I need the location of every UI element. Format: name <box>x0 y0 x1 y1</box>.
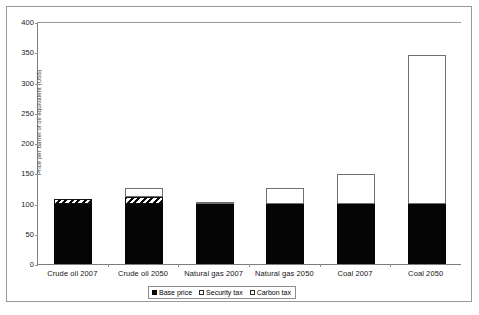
bar-segment <box>408 204 446 265</box>
x-tick-label: Coal 2050 <box>371 269 479 278</box>
bars-layer <box>38 23 461 264</box>
legend-swatch-icon <box>250 290 255 295</box>
bar-segment <box>196 204 234 265</box>
plot-area: Price per barrel of oil equivalent (US$)… <box>37 22 461 264</box>
bar-group <box>179 23 250 264</box>
bar-segment <box>125 204 163 265</box>
legend-item[interactable]: Security tax <box>199 288 243 297</box>
bar-segment <box>266 204 304 265</box>
x-tick-mark <box>249 264 250 267</box>
legend-label: Security tax <box>206 288 243 297</box>
bar-segment <box>408 55 446 203</box>
bar-group <box>321 23 392 264</box>
x-tick-mark <box>108 264 109 267</box>
legend-label: Carbon tax <box>257 288 291 297</box>
bar-group <box>250 23 321 264</box>
bar-segment <box>54 204 92 265</box>
legend-label: Base price <box>159 288 192 297</box>
bar-segment <box>196 202 234 204</box>
legend-swatch-icon <box>199 290 204 295</box>
bar-segment <box>337 174 375 203</box>
bar-group <box>391 23 462 264</box>
bar-group <box>109 23 180 264</box>
chart-root: Price per barrel of oil equivalent (US$)… <box>0 0 479 315</box>
x-tick-mark <box>320 264 321 267</box>
legend-swatch-icon <box>152 290 157 295</box>
bar-segment <box>125 197 163 203</box>
bar-segment <box>337 204 375 265</box>
legend-item[interactable]: Base price <box>152 288 192 297</box>
bar-segment <box>54 199 92 204</box>
y-tick-mark <box>35 265 38 266</box>
legend-item[interactable]: Carbon tax <box>250 288 291 297</box>
bar-segment <box>266 188 304 203</box>
bar-group <box>38 23 109 264</box>
bar-segment <box>125 188 163 197</box>
x-tick-mark <box>178 264 179 267</box>
chart-legend: Base priceSecurity taxCarbon tax <box>148 286 296 299</box>
x-tick-mark <box>390 264 391 267</box>
